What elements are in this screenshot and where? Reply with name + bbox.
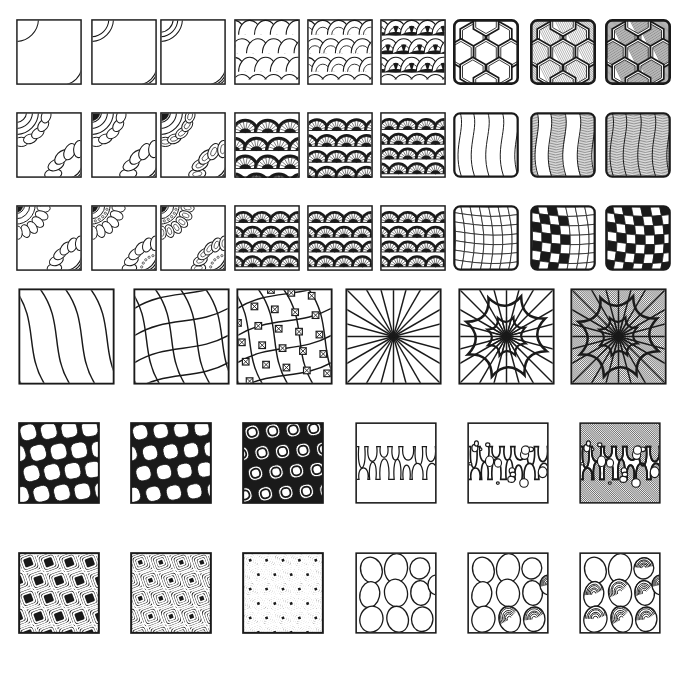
pattern-tile-warped-check-step-1 xyxy=(453,205,519,271)
pattern-tile-wave-bands-step-2 xyxy=(530,112,596,178)
pattern-tile-drip-blob-step-1 xyxy=(355,422,437,504)
pattern-tile-crescent-arcs-step-2 xyxy=(91,19,157,85)
pattern-tile-honeycomb-step-2 xyxy=(530,19,596,85)
pattern-tile-shell-fan-step-2 xyxy=(307,112,373,178)
pattern-tile-spiral-squares-step-3 xyxy=(242,552,324,634)
pattern-tile-shell-fan-step-3 xyxy=(380,112,446,178)
pattern-tile-shell-fan-dense-step-3 xyxy=(380,205,446,271)
pattern-tile-fish-scale-step-2 xyxy=(307,19,373,85)
pattern-tile-curved-lattice-step-2 xyxy=(133,288,230,385)
pattern-tile-black-lattice-step-3 xyxy=(242,422,324,504)
pattern-tile-black-lattice-step-2 xyxy=(130,422,212,504)
pattern-tile-wave-bands-step-3 xyxy=(605,112,671,178)
pattern-tile-drip-blob-step-2 xyxy=(467,422,549,504)
pattern-tile-pebble-shell-step-3 xyxy=(579,552,661,634)
pattern-tile-honeycomb-step-1 xyxy=(453,19,519,85)
pattern-tile-mandala-corner-step-1 xyxy=(16,205,82,271)
pattern-sheet xyxy=(0,0,681,675)
pattern-tile-crescent-arcs-step-1 xyxy=(16,19,82,85)
pattern-tile-spiral-squares-step-2 xyxy=(130,552,212,634)
pattern-tile-shell-fan-dense-step-1 xyxy=(234,205,300,271)
pattern-tile-corner-flower-step-2 xyxy=(91,112,157,178)
pattern-tile-pebble-shell-step-1 xyxy=(355,552,437,634)
pattern-tile-shell-fan-step-1 xyxy=(234,112,300,178)
pattern-tile-wave-bands-step-1 xyxy=(453,112,519,178)
pattern-tile-corner-flower-step-3 xyxy=(160,112,226,178)
pattern-tile-fish-scale-step-3 xyxy=(380,19,446,85)
pattern-tile-curved-lattice-step-1 xyxy=(18,288,115,385)
pattern-tile-curved-lattice-step-3 xyxy=(236,288,333,385)
pattern-tile-mandala-corner-step-3 xyxy=(160,205,226,271)
pattern-tile-shell-fan-dense-step-2 xyxy=(307,205,373,271)
pattern-tile-radial-burst-step-1 xyxy=(345,288,442,385)
pattern-tile-pebble-shell-step-2 xyxy=(467,552,549,634)
pattern-tile-warped-check-step-2 xyxy=(530,205,596,271)
pattern-tile-fish-scale-step-1 xyxy=(234,19,300,85)
pattern-tile-black-lattice-step-1 xyxy=(18,422,100,504)
pattern-tile-spiral-squares-step-1 xyxy=(18,552,100,634)
pattern-tile-warped-check-step-3 xyxy=(605,205,671,271)
pattern-tile-mandala-corner-step-2 xyxy=(91,205,157,271)
pattern-tile-radial-burst-step-2 xyxy=(458,288,555,385)
pattern-tile-radial-burst-step-3 xyxy=(570,288,667,385)
pattern-tile-corner-flower-step-1 xyxy=(16,112,82,178)
pattern-tile-honeycomb-step-3 xyxy=(605,19,671,85)
pattern-tile-drip-blob-step-3 xyxy=(579,422,661,504)
pattern-tile-crescent-arcs-step-3 xyxy=(160,19,226,85)
